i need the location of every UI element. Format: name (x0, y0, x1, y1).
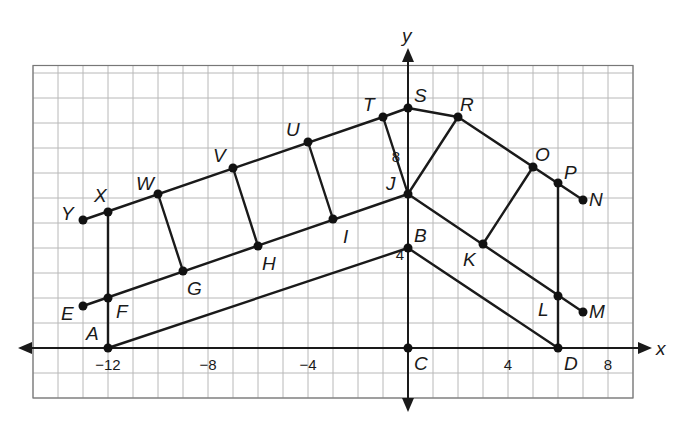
point-D (554, 344, 563, 353)
point-U (304, 138, 313, 147)
x-axis-label: x (655, 338, 667, 359)
segment-VH (233, 168, 258, 246)
point-label-M: M (589, 301, 605, 322)
point-label-I: I (343, 226, 349, 247)
point-label-F: F (116, 301, 129, 322)
point-label-P: P (564, 162, 577, 183)
point-P (554, 179, 563, 188)
point-A (104, 344, 113, 353)
point-G (179, 267, 188, 276)
point-label-S: S (414, 85, 427, 106)
x-axis-right-arrow-icon (638, 342, 652, 354)
point-S (404, 104, 413, 113)
point-F (104, 294, 113, 303)
point-label-W: W (136, 173, 156, 194)
point-V (229, 164, 238, 173)
point-label-U: U (286, 119, 300, 140)
point-label-J: J (385, 173, 396, 194)
y-axis-down-arrow-icon (402, 398, 414, 412)
tick-label: 8 (604, 356, 612, 373)
segment-WG (158, 194, 183, 271)
x-axis-left-arrow-icon (18, 342, 32, 354)
tick-label: −4 (299, 356, 316, 373)
point-L (554, 292, 563, 301)
point-W (154, 190, 163, 199)
coordinate-plane-figure: xy −12−8−44848 ABCDEFGHIJKLMNOPRSTUVWXY (0, 0, 689, 428)
point-label-C: C (414, 353, 428, 374)
point-J (404, 190, 413, 199)
point-label-K: K (463, 249, 477, 270)
point-label-R: R (460, 94, 474, 115)
point-label-G: G (187, 278, 202, 299)
tick-label: −12 (95, 356, 120, 373)
tick-labels: −12−8−44848 (95, 148, 612, 373)
point-H (254, 242, 263, 251)
point-E (79, 302, 88, 311)
point-label-X: X (93, 185, 108, 206)
point-C (404, 344, 413, 353)
point-Y (79, 216, 88, 225)
point-I (329, 215, 338, 224)
point-label-L: L (538, 299, 549, 320)
point-label-T: T (363, 94, 376, 115)
y-axis-up-arrow-icon (402, 48, 414, 62)
point-K (479, 240, 488, 249)
point-X (104, 208, 113, 217)
point-label-E: E (61, 303, 74, 324)
tick-label: −8 (199, 356, 216, 373)
point-N (579, 196, 588, 205)
point-label-O: O (535, 144, 550, 165)
point-label-Y: Y (61, 203, 75, 224)
point-B (404, 244, 413, 253)
point-label-A: A (85, 323, 99, 344)
point-label-H: H (262, 253, 276, 274)
segment-UI (308, 142, 333, 219)
point-label-B: B (414, 225, 427, 246)
y-axis-label: y (400, 25, 413, 46)
point-M (579, 308, 588, 317)
point-label-D: D (564, 353, 578, 374)
point-T (379, 113, 388, 122)
point-label-N: N (589, 189, 603, 210)
tick-label: 4 (504, 356, 512, 373)
